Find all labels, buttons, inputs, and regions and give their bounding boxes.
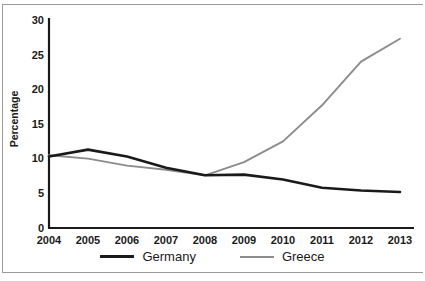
chart-legend: Germany Greece — [0, 249, 425, 264]
legend-label-greece: Greece — [282, 249, 325, 264]
legend-label-germany: Germany — [142, 249, 195, 264]
series-line-greece — [49, 39, 400, 176]
series-line-germany — [49, 150, 400, 192]
legend-item-germany: Germany — [100, 249, 195, 264]
chart-figure: Percentage 30 25 20 15 10 5 0 2004 2005 … — [0, 0, 425, 281]
chart-plot-area — [0, 0, 425, 281]
legend-swatch-greece-icon — [240, 256, 274, 258]
legend-item-greece: Greece — [240, 249, 325, 264]
legend-swatch-germany-icon — [100, 255, 134, 258]
